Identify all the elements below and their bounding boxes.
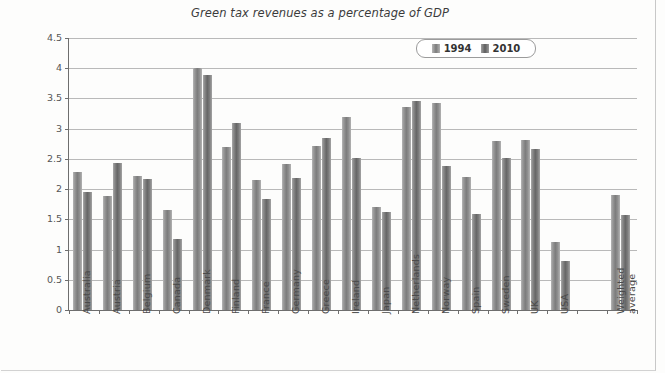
legend-label-2010: 2010 xyxy=(493,43,521,54)
x-tick-mark xyxy=(368,310,369,314)
y-tick-label: 1 xyxy=(28,244,62,255)
bar-2010 xyxy=(531,149,540,310)
legend-entry-2010[interactable]: 2010 xyxy=(481,43,521,54)
bar-group xyxy=(577,38,607,310)
y-tick-label: 3 xyxy=(28,123,62,134)
bar-1994 xyxy=(521,140,530,310)
x-axis-label: Austria xyxy=(111,279,122,314)
bar-group xyxy=(428,38,458,310)
x-tick-mark xyxy=(547,310,548,314)
x-tick-mark xyxy=(458,310,459,314)
bar-group xyxy=(129,38,159,310)
x-axis-label: Sweden xyxy=(500,275,511,314)
x-axis-label: France xyxy=(260,281,271,314)
bar-group xyxy=(368,38,398,310)
legend-swatch-1994-icon xyxy=(432,44,440,53)
bar-group xyxy=(248,38,278,310)
bar-group xyxy=(488,38,518,310)
x-tick-mark xyxy=(69,310,70,314)
y-tick-label: 1.5 xyxy=(28,213,62,224)
x-tick-mark xyxy=(278,310,279,314)
x-tick-mark xyxy=(99,310,100,314)
bar-group xyxy=(338,38,368,310)
x-tick-mark xyxy=(577,310,578,314)
x-tick-mark xyxy=(398,310,399,314)
x-tick-mark xyxy=(218,310,219,314)
x-axis-label: Belgium xyxy=(141,274,152,314)
x-axis-label: Greece xyxy=(320,279,331,314)
x-axis-label: Norway xyxy=(440,277,451,314)
chart-title: Green tax revenues as a percentage of GD… xyxy=(0,6,640,20)
x-tick-mark xyxy=(189,310,190,314)
x-tick-mark xyxy=(129,310,130,314)
x-axis-label: Weightedaverage xyxy=(615,267,637,314)
x-axis-label: Denmark xyxy=(201,269,212,314)
y-tick-label: 3.5 xyxy=(28,92,62,103)
x-axis-label-line: average xyxy=(626,267,637,314)
x-axis-label: Finland xyxy=(230,279,241,314)
x-axis-label: Australia xyxy=(81,270,92,314)
x-tick-mark xyxy=(159,310,160,314)
y-tick-label: 0.5 xyxy=(28,274,62,285)
x-axis-label: Ireland xyxy=(350,280,361,314)
x-tick-mark xyxy=(607,310,608,314)
x-tick-mark xyxy=(428,310,429,314)
x-tick-mark xyxy=(308,310,309,314)
y-tick-label: 0 xyxy=(28,304,62,315)
y-tick-label: 2 xyxy=(28,183,62,194)
plot-area xyxy=(68,38,637,311)
x-axis-label: Germany xyxy=(290,269,301,314)
x-axis-label-line: Weighted xyxy=(615,267,626,314)
x-tick-mark xyxy=(637,310,638,314)
bar-group xyxy=(547,38,577,310)
bar-group xyxy=(159,38,189,310)
x-tick-mark xyxy=(338,310,339,314)
x-axis-label: USA xyxy=(559,294,570,314)
chart-page: Green tax revenues as a percentage of GD… xyxy=(0,0,665,373)
x-axis-label: UK xyxy=(529,300,540,314)
x-axis-label: Japan xyxy=(380,287,391,315)
y-tick-label: 2.5 xyxy=(28,153,62,164)
chart-legend[interactable]: 1994 2010 xyxy=(416,39,536,58)
legend-label-1994: 1994 xyxy=(444,43,472,54)
x-tick-mark xyxy=(517,310,518,314)
bar-group xyxy=(218,38,248,310)
x-tick-mark xyxy=(488,310,489,314)
y-tick-label: 4 xyxy=(28,62,62,73)
legend-entry-1994[interactable]: 1994 xyxy=(432,43,472,54)
x-tick-mark xyxy=(248,310,249,314)
y-tick-label: 4.5 xyxy=(28,32,62,43)
x-axis-label: Spain xyxy=(470,286,481,314)
bar-group xyxy=(308,38,338,310)
x-axis-label: Canada xyxy=(171,277,182,314)
bar-group xyxy=(458,38,488,310)
bar-group xyxy=(99,38,129,310)
legend-swatch-2010-icon xyxy=(481,44,489,53)
bar-group xyxy=(517,38,547,310)
x-axis-label: Netherlands xyxy=(410,254,421,314)
